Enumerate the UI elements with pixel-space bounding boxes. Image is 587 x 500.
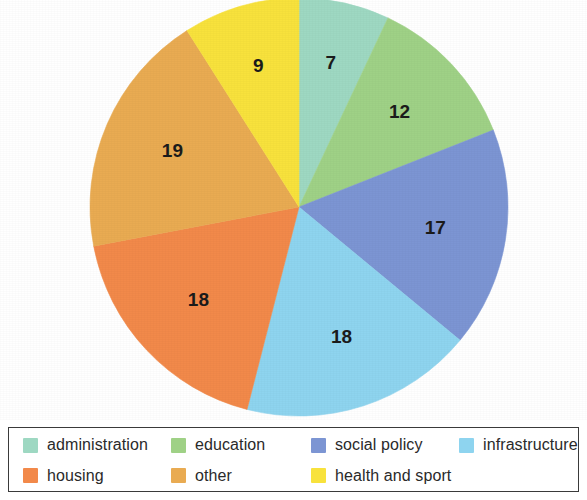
pie-data-label: 7: [326, 52, 337, 73]
legend-swatch-icon: [311, 468, 326, 483]
legend-item[interactable]: other: [171, 463, 311, 489]
pie-data-label: 18: [188, 289, 209, 310]
legend-item[interactable]: education: [171, 432, 311, 458]
legend-item[interactable]: health and sport: [311, 463, 459, 489]
pie-chart-figure: 712171818199 administrationeducationsoci…: [0, 0, 587, 500]
chart-legend: administrationeducationsocial policyinfr…: [8, 427, 579, 492]
pie-svg: 712171818199: [0, 0, 587, 420]
pie-data-label: 19: [162, 140, 183, 161]
legend-item[interactable]: social policy: [311, 432, 459, 458]
pie-plot-area: 712171818199: [0, 0, 587, 420]
legend-swatch-icon: [171, 438, 186, 453]
legend-grid: administrationeducationsocial policyinfr…: [9, 428, 578, 491]
legend-swatch-icon: [459, 438, 474, 453]
pie-data-label: 12: [389, 101, 410, 122]
pie-data-label: 18: [331, 326, 352, 347]
legend-item-label: social policy: [335, 436, 423, 454]
legend-swatch-icon: [311, 438, 326, 453]
legend-item[interactable]: infrastructure: [459, 432, 587, 458]
legend-item-label: health and sport: [335, 467, 451, 485]
pie-data-label: 17: [425, 217, 446, 238]
legend-swatch-icon: [171, 468, 186, 483]
legend-item[interactable]: administration: [23, 432, 171, 458]
legend-item-label: education: [195, 436, 265, 454]
legend-swatch-icon: [23, 468, 38, 483]
pie-data-label: 9: [253, 55, 264, 76]
legend-item[interactable]: housing: [23, 463, 171, 489]
pie-slice-group: [90, 0, 508, 416]
legend-item-label: administration: [47, 436, 148, 454]
legend-item-label: other: [195, 467, 232, 485]
legend-item-label: housing: [47, 467, 104, 485]
legend-swatch-icon: [23, 438, 38, 453]
legend-item-label: infrastructure: [483, 436, 578, 454]
